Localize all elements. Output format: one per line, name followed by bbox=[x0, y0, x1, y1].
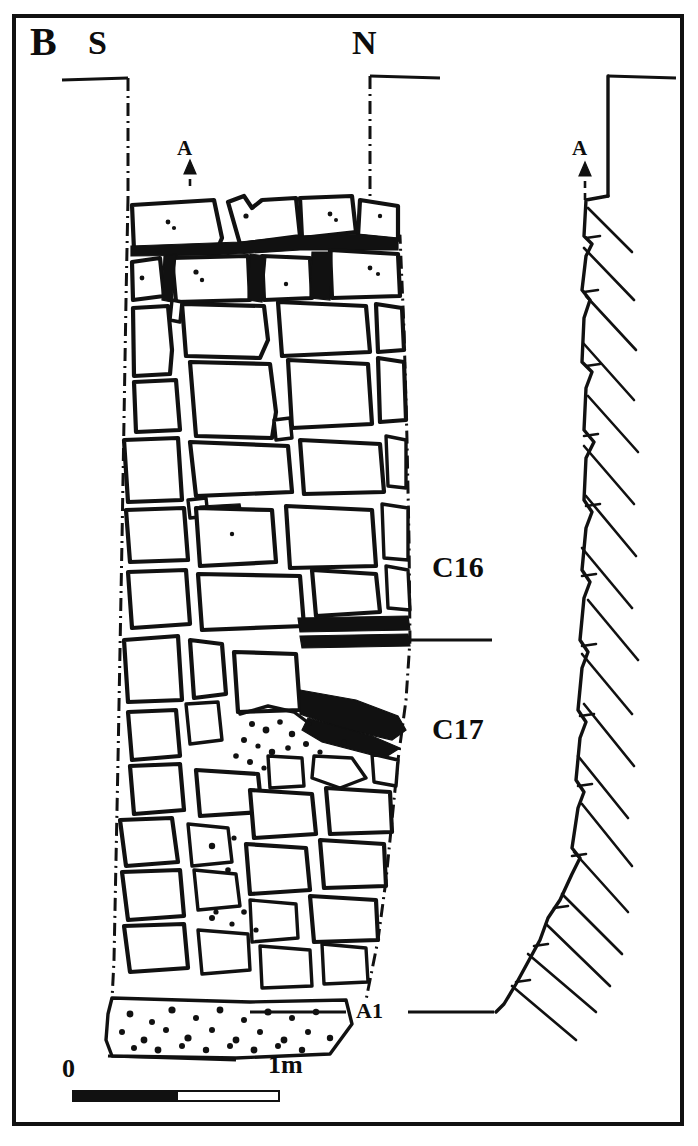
datum-line-east bbox=[608, 76, 676, 196]
masonry-course-4 bbox=[134, 358, 406, 440]
masonry-course-2 bbox=[132, 250, 400, 302]
section-drawing-canvas bbox=[0, 0, 698, 1146]
marker-label-a-left: A bbox=[177, 138, 192, 159]
masonry-course-6 bbox=[126, 504, 408, 568]
context-label-c17: C17 bbox=[432, 714, 484, 744]
masonry-course-8 bbox=[124, 636, 300, 760]
datum-line-south bbox=[62, 78, 128, 198]
orientation-label-north: N bbox=[352, 26, 377, 60]
marker-label-a1: A1 bbox=[356, 1000, 383, 1022]
basal-stippled-deposit bbox=[106, 998, 352, 1060]
scale-bar-segment-filled bbox=[72, 1090, 176, 1102]
section-edge-profile bbox=[496, 196, 638, 1040]
marker-label-a-right: A bbox=[572, 138, 587, 159]
scale-start-label: 0 bbox=[62, 1056, 75, 1082]
panel-label: B bbox=[30, 22, 57, 62]
marker-arrow-left bbox=[184, 160, 196, 186]
marker-arrow-right bbox=[579, 162, 591, 200]
orientation-label-south: S bbox=[88, 26, 107, 60]
context-label-c16: C16 bbox=[432, 552, 484, 582]
figure-page: B S N A A C16 C17 A1 0 1m bbox=[0, 0, 698, 1146]
masonry-course-5 bbox=[124, 436, 406, 518]
scale-end-label: 1m bbox=[268, 1052, 303, 1078]
masonry-course-1 bbox=[131, 196, 398, 256]
scale-bar-segment-hollow bbox=[176, 1090, 280, 1102]
